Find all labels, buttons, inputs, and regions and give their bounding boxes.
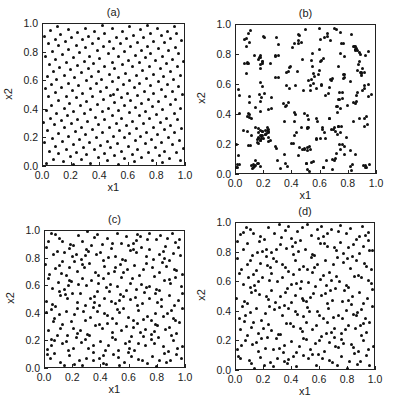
y-tick-label: 0.2 (16, 131, 38, 143)
x-tick-label: 1.0 (368, 373, 383, 385)
data-point (148, 285, 151, 288)
data-point (105, 286, 108, 289)
data-point (153, 342, 156, 345)
data-point (148, 117, 151, 120)
data-point (88, 141, 91, 144)
data-point (236, 257, 239, 260)
data-point (53, 317, 56, 320)
data-point (160, 34, 163, 37)
data-point (166, 83, 169, 86)
data-point (345, 136, 348, 139)
data-point (287, 225, 290, 228)
x-tick-mark (185, 162, 186, 166)
data-point (96, 290, 99, 293)
data-point (352, 243, 355, 246)
data-point (267, 298, 270, 301)
data-point (84, 304, 87, 307)
data-point (113, 270, 116, 273)
data-point (325, 284, 328, 287)
y-tick-mark (44, 258, 48, 259)
data-point (103, 265, 106, 268)
data-point (267, 136, 270, 139)
data-point (339, 31, 342, 34)
data-point (107, 52, 110, 55)
data-point (72, 347, 75, 350)
data-point (360, 71, 363, 74)
data-point (99, 340, 102, 343)
data-point (165, 265, 168, 268)
data-point (170, 334, 173, 337)
data-point (127, 145, 130, 148)
y-tick-mark (42, 52, 46, 53)
y-tick-label: 0.8 (209, 246, 231, 258)
data-point (124, 72, 127, 75)
data-point (236, 240, 239, 243)
data-point (127, 244, 130, 247)
data-point (275, 248, 278, 251)
data-point (155, 288, 158, 291)
data-point (296, 313, 299, 316)
data-point (57, 132, 60, 135)
data-point (299, 327, 302, 330)
data-point (159, 234, 162, 237)
data-point (257, 131, 260, 134)
data-point (160, 88, 163, 91)
data-point (75, 44, 78, 47)
data-point (54, 38, 57, 41)
x-tick-mark (291, 170, 292, 174)
y-tick-mark (235, 252, 239, 253)
data-point (164, 245, 167, 248)
data-point (161, 108, 164, 111)
x-axis-label: x1 (299, 385, 311, 397)
data-point (173, 304, 176, 307)
data-point (259, 356, 262, 359)
y-tick-mark (44, 340, 48, 341)
data-point (106, 322, 109, 325)
data-point (96, 49, 99, 52)
data-point (102, 277, 105, 280)
data-point (181, 93, 184, 96)
data-point (328, 271, 331, 274)
data-point (268, 305, 271, 308)
data-point (342, 252, 345, 255)
data-point (118, 311, 121, 314)
y-tick-label: 0.6 (209, 275, 231, 287)
data-point (316, 120, 319, 123)
data-point (134, 296, 137, 299)
data-point (123, 50, 126, 53)
y-tick-label: 0.2 (209, 334, 231, 346)
data-point (293, 111, 296, 114)
data-point (319, 38, 322, 41)
y-tick-mark (44, 285, 48, 286)
y-tick-label: 0.4 (16, 103, 38, 115)
data-point (152, 73, 155, 76)
data-point (81, 277, 84, 280)
data-point (279, 243, 282, 246)
data-point (315, 364, 318, 367)
data-point (306, 127, 309, 130)
data-point (49, 29, 52, 32)
data-point (124, 342, 127, 345)
data-point (117, 55, 120, 58)
data-point (356, 69, 359, 72)
data-point (128, 25, 131, 28)
data-point (319, 242, 322, 245)
data-point (146, 24, 149, 27)
x-tick-label: 0.4 (284, 373, 299, 385)
data-point (351, 295, 354, 298)
data-point (170, 309, 173, 312)
data-point (61, 342, 64, 345)
data-point (65, 310, 68, 313)
data-point (365, 265, 368, 268)
data-point (264, 312, 267, 315)
y-tick-label: 1.0 (209, 18, 231, 30)
data-point (150, 338, 153, 341)
data-point (59, 361, 62, 364)
data-point (115, 36, 118, 39)
x-tick-label: 0.8 (340, 177, 355, 189)
y-axis-label: x2 (195, 289, 207, 301)
data-point (339, 224, 342, 227)
data-point (153, 275, 156, 278)
data-point (122, 83, 125, 86)
x-tick-label: 0.6 (312, 373, 327, 385)
